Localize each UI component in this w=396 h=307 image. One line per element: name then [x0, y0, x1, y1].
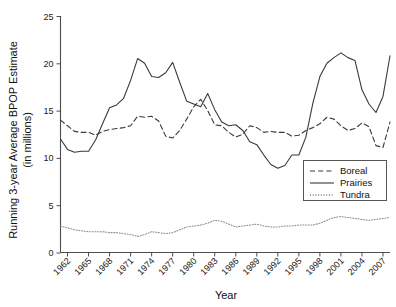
- x-tick-label: 2004: [346, 256, 367, 277]
- x-tick-label: 1962: [51, 256, 72, 277]
- x-tick-label: 2007: [367, 256, 388, 277]
- y-tick-label: 10: [43, 153, 53, 163]
- x-axis-title: Year: [215, 289, 238, 301]
- y-tick-label: 25: [43, 12, 53, 22]
- y-tick-label: 20: [43, 59, 53, 69]
- chart-container: Running 3-year Average BPOP Estimate (in…: [0, 0, 396, 307]
- x-tick-label: 1965: [72, 256, 93, 277]
- x-axis: 1962196519681971197419771980198319861989…: [51, 253, 388, 278]
- x-tick-label: 1992: [262, 256, 283, 277]
- x-tick-label: 1971: [114, 256, 135, 277]
- series-line-prairies: [61, 53, 391, 168]
- x-tick-label: 1998: [304, 256, 325, 277]
- y-tick-label: 5: [48, 201, 53, 211]
- series-group: [61, 53, 391, 237]
- x-tick-label: 1977: [156, 256, 177, 277]
- y-tick-label: 0: [48, 248, 53, 258]
- series-line-tundra: [61, 217, 391, 237]
- y-axis-title-line2: (in millions): [21, 112, 33, 168]
- x-tick-label: 1968: [93, 256, 114, 277]
- y-axis-title-group: Running 3-year Average BPOP Estimate (in…: [7, 41, 33, 239]
- x-tick-label: 1980: [177, 256, 198, 277]
- x-tick-label: 1989: [240, 256, 261, 277]
- legend-label-prairies[interactable]: Prairies: [340, 177, 372, 188]
- y-axis-title-line1: Running 3-year Average BPOP Estimate: [7, 41, 19, 239]
- y-tick-label: 15: [43, 106, 53, 116]
- x-tick-label: 1995: [283, 256, 304, 277]
- x-tick-label: 1974: [135, 256, 156, 277]
- x-tick-label: 2001: [325, 256, 346, 277]
- chart-legend[interactable]: BorealPrairiesTundra: [304, 161, 387, 201]
- y-axis: 0510152025: [43, 12, 60, 259]
- legend-label-tundra[interactable]: Tundra: [340, 189, 370, 200]
- legend-label-boreal[interactable]: Boreal: [340, 165, 367, 176]
- x-tick-label: 1983: [198, 256, 219, 277]
- x-tick-label: 1986: [219, 256, 240, 277]
- line-chart: Running 3-year Average BPOP Estimate (in…: [0, 0, 396, 307]
